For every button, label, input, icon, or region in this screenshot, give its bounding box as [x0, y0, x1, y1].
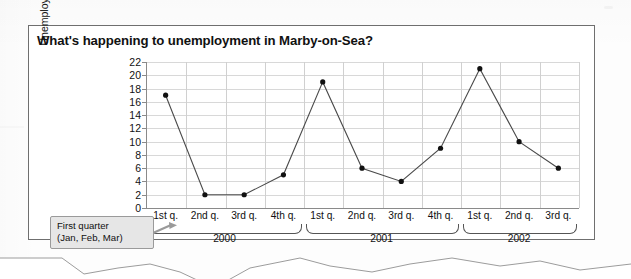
- x-axis-tick-label: 2nd q.: [505, 210, 533, 221]
- data-point-marker: [320, 79, 325, 84]
- x-axis-tick-label: 3rd q.: [388, 210, 414, 221]
- data-point-marker: [281, 172, 286, 177]
- x-axis-tick-label: 1st q.: [310, 210, 335, 221]
- chart-title: What's happening to unemployment in Marb…: [37, 33, 373, 48]
- y-axis-tick-label: 4: [113, 176, 141, 187]
- data-point-marker: [163, 93, 168, 98]
- y-axis-tick-labels: 2220181614121086420: [110, 62, 141, 208]
- data-point-marker: [242, 192, 247, 197]
- y-axis-tick-label: 20: [113, 70, 141, 81]
- torn-paper-edge: [0, 228, 631, 279]
- paper-smudge: [604, 6, 613, 9]
- y-axis-title-wrapper: Unemployment (thousands): [100, 62, 101, 208]
- data-point-marker: [202, 192, 207, 197]
- data-point-marker: [359, 166, 364, 171]
- x-axis-tick-label: 1st q.: [153, 210, 178, 221]
- y-axis-tick-label: 8: [113, 150, 141, 161]
- page-background: What's happening to unemployment in Marb…: [0, 0, 631, 279]
- x-axis-tick-label: 3rd q.: [545, 210, 571, 221]
- y-axis-tick-label: 2: [113, 190, 141, 201]
- x-axis-tick-labels: 1st q.2nd q.3rd q.4th q.1st q.2nd q.3rd …: [146, 210, 578, 224]
- y-axis-tick-label: 14: [113, 110, 141, 121]
- gridline-vertical: [579, 62, 580, 208]
- paper-smudge-2: [0, 126, 24, 128]
- data-point-marker: [556, 166, 561, 171]
- data-line: [166, 69, 559, 195]
- data-point-marker: [438, 146, 443, 151]
- y-axis-tick-label: 12: [113, 123, 141, 134]
- y-axis-tick-label: 0: [113, 203, 141, 214]
- x-axis-tick-label: 4th q.: [428, 210, 454, 221]
- x-axis-tick-label: 1st q.: [467, 210, 492, 221]
- x-axis-tick-label: 2nd q.: [348, 210, 376, 221]
- x-axis-tick-label: 2nd q.: [191, 210, 219, 221]
- x-axis-tick-label: 4th q.: [271, 210, 297, 221]
- y-axis-tick-label: 18: [113, 84, 141, 95]
- data-point-marker: [477, 66, 482, 71]
- y-axis-tick-label: 10: [113, 137, 141, 148]
- y-axis-tick-label: 16: [113, 97, 141, 108]
- data-point-marker: [516, 139, 521, 144]
- y-axis-tick-label: 6: [113, 163, 141, 174]
- x-axis-tick-label: 3rd q.: [231, 210, 257, 221]
- data-series-unemployment: [146, 62, 578, 208]
- y-axis-title: Unemployment (thousands): [38, 0, 50, 58]
- y-axis-tick-label: 22: [113, 57, 141, 68]
- data-point-marker: [399, 179, 404, 184]
